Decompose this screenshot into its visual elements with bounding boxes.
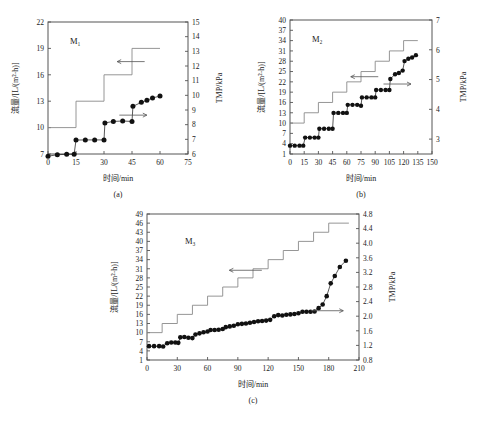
x-tick-label: 30 bbox=[174, 364, 182, 373]
x-tick-label: 210 bbox=[353, 364, 365, 373]
y-left-tick-label: 43 bbox=[136, 228, 144, 237]
y-left-tick-label: 31 bbox=[136, 265, 144, 274]
y-left-tick-label: 40 bbox=[279, 16, 287, 25]
tmp-data-point bbox=[332, 274, 337, 279]
x-tick-label: 30 bbox=[100, 158, 108, 167]
y-left-tick-label: 34 bbox=[136, 255, 144, 264]
tmp-data-point bbox=[317, 126, 321, 130]
tmp-data-point bbox=[150, 95, 155, 100]
tmp-data-point bbox=[379, 88, 383, 92]
tmp-data-point bbox=[152, 344, 157, 349]
tmp-data-point bbox=[344, 258, 349, 263]
tmp-data-point bbox=[410, 55, 414, 59]
x-tick-label: 0 bbox=[46, 158, 50, 167]
y-left-tick-label: 7 bbox=[40, 150, 44, 159]
x-tick-label: 15 bbox=[72, 158, 80, 167]
tmp-data-point bbox=[111, 119, 116, 124]
series-title-b: M₂ bbox=[312, 34, 323, 44]
y-left-tick-label: 13 bbox=[279, 109, 287, 118]
tmp-data-point bbox=[178, 335, 183, 340]
y-right-axis-label: TMP/kPa bbox=[459, 71, 468, 102]
tmp-data-point bbox=[406, 57, 410, 61]
y-right-tick-label: 4.8 bbox=[363, 210, 373, 219]
x-tick-label: 150 bbox=[426, 158, 438, 167]
tmp-data-point bbox=[244, 321, 249, 326]
tmp-data-point bbox=[350, 103, 354, 107]
tmp-data-point bbox=[165, 341, 170, 346]
tmp-data-point bbox=[331, 111, 335, 115]
y-right-tick-label: 1.2 bbox=[363, 341, 373, 350]
annotation-arrow-right bbox=[119, 113, 146, 117]
series-title-a: M₁ bbox=[70, 36, 81, 46]
panel-caption-a: (a) bbox=[114, 190, 123, 199]
tmp-data-point bbox=[144, 98, 149, 103]
series-title-c: M₃ bbox=[185, 236, 196, 246]
y-left-tick-label: 22 bbox=[37, 18, 45, 27]
y-left-tick-label: 25 bbox=[279, 67, 287, 76]
y-right-axis-label: TMP/kPa bbox=[215, 72, 224, 103]
tmp-data-point bbox=[193, 332, 198, 337]
tmp-connector-line bbox=[48, 96, 160, 156]
y-right-tick-label: 3.6 bbox=[363, 254, 373, 263]
y-left-tick-label: 37 bbox=[279, 26, 287, 35]
tmp-data-point bbox=[223, 325, 228, 330]
panel-caption-b: (b) bbox=[356, 190, 366, 199]
y-right-tick-label: 13 bbox=[192, 47, 200, 56]
tmp-data-point bbox=[102, 120, 107, 125]
tmp-data-point bbox=[161, 344, 166, 349]
tmp-data-point bbox=[176, 341, 181, 346]
y-left-axis-label: 流量/[L/(m²·h)] bbox=[109, 261, 119, 313]
x-tick-label: 30 bbox=[315, 158, 323, 167]
tmp-data-point bbox=[320, 302, 325, 307]
x-axis-label: 时间/min bbox=[103, 173, 134, 183]
tmp-data-point bbox=[201, 330, 206, 335]
tmp-data-point bbox=[388, 77, 392, 81]
x-tick-label: 0 bbox=[145, 364, 149, 373]
y-right-tick-label: 2.8 bbox=[363, 283, 373, 292]
chart-panel-b: 0153045607590105120135150147101316192225… bbox=[250, 4, 501, 200]
y-left-tick-label: 37 bbox=[136, 246, 144, 255]
tmp-data-point bbox=[236, 322, 241, 327]
tmp-data-point bbox=[296, 311, 301, 316]
y-left-tick-label: 4 bbox=[139, 347, 143, 356]
tmp-data-point bbox=[312, 309, 317, 314]
tmp-data-point bbox=[383, 88, 387, 92]
y-left-tick-label: 25 bbox=[136, 283, 144, 292]
tmp-data-point bbox=[197, 331, 202, 336]
x-tick-label: 150 bbox=[293, 364, 305, 373]
tmp-data-point bbox=[182, 335, 187, 340]
y-left-tick-label: 1 bbox=[282, 150, 286, 159]
y-right-tick-label: 4.4 bbox=[363, 224, 373, 233]
tmp-data-point bbox=[373, 95, 377, 99]
y-left-tick-label: 49 bbox=[136, 210, 144, 219]
tmp-data-point bbox=[120, 119, 125, 124]
y-right-tick-label: 4 bbox=[436, 105, 440, 114]
y-left-tick-label: 19 bbox=[37, 44, 45, 53]
tmp-connector-line bbox=[149, 261, 346, 347]
tmp-data-point bbox=[316, 306, 321, 311]
x-tick-label: 75 bbox=[357, 158, 365, 167]
tmp-data-point bbox=[252, 320, 257, 325]
flux-step-line bbox=[147, 223, 349, 333]
x-tick-label: 15 bbox=[300, 158, 308, 167]
tmp-data-point bbox=[240, 322, 245, 327]
tmp-data-point bbox=[369, 95, 373, 99]
tmp-data-point bbox=[130, 119, 135, 124]
x-tick-label: 90 bbox=[234, 364, 242, 373]
x-tick-label: 45 bbox=[329, 158, 337, 167]
tmp-data-point bbox=[359, 104, 363, 108]
y-right-tick-label: 4.0 bbox=[363, 239, 373, 248]
x-tick-label: 60 bbox=[156, 158, 164, 167]
tmp-data-point bbox=[46, 154, 51, 159]
y-right-tick-label: 14 bbox=[192, 32, 200, 41]
y-right-tick-label: 0.8 bbox=[363, 356, 373, 365]
panel-caption-c: (c) bbox=[249, 396, 258, 405]
y-right-tick-label: 6 bbox=[436, 46, 440, 55]
y-right-tick-label: 11 bbox=[192, 76, 199, 85]
tmp-data-point bbox=[186, 335, 191, 340]
annotation-arrow-left bbox=[117, 60, 145, 64]
tmp-data-point bbox=[360, 95, 364, 99]
tmp-data-point bbox=[338, 265, 343, 270]
y-left-tick-label: 40 bbox=[136, 237, 144, 246]
tmp-data-point bbox=[64, 152, 69, 157]
